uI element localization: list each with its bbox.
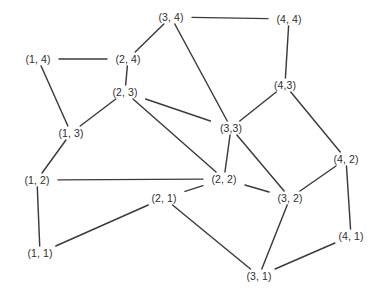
graph-edge [237, 135, 284, 191]
graph-node-label: (3, 2) [277, 193, 303, 204]
graph-node-label: (3, 4) [158, 12, 184, 23]
graph-edge [135, 24, 164, 52]
graph-edge [245, 185, 269, 192]
graph-edge [346, 166, 350, 229]
graph-node-label: (2, 3) [112, 87, 138, 98]
graph-edge [185, 186, 203, 192]
graph-edge [275, 243, 335, 269]
graph-node-label: (3, 1) [246, 271, 272, 282]
graph-node-label: (1, 1) [27, 248, 53, 259]
graph-edge [80, 99, 116, 126]
graph-node-label: (3,3) [219, 123, 242, 134]
graph-edge [41, 66, 68, 126]
graph-edge [291, 92, 340, 152]
graph-edge [175, 24, 227, 121]
graph-edge [56, 205, 148, 246]
graph-edge [240, 92, 276, 121]
graph-edge [300, 166, 336, 191]
graph-edge [37, 187, 39, 246]
graph-node-label: (4, 4) [276, 14, 302, 25]
graph-node-label: (2, 4) [115, 54, 141, 65]
graph-node-label: (1, 4) [25, 54, 51, 65]
graph-edge [58, 179, 203, 180]
graph-edge [133, 99, 216, 172]
graph-node-label: (2, 1) [151, 193, 177, 204]
graph-edge [262, 205, 287, 269]
graph-node-label: (1, 2) [24, 175, 50, 186]
graph-edge [42, 140, 66, 173]
graph-edge [173, 205, 251, 269]
graph-edges-layer [0, 0, 384, 301]
graph-edge [285, 26, 288, 78]
graph-node-label: (2, 2) [211, 174, 237, 185]
graph-edge [192, 17, 268, 18]
graph-node-label: (4, 2) [333, 154, 359, 165]
graph-node-label: (1, 3) [58, 128, 84, 139]
graph-edge [126, 66, 128, 85]
graph-node-label: (4, 1) [338, 231, 364, 242]
graph-edge [225, 135, 230, 172]
graph-node-label: (4,3) [273, 80, 296, 91]
graph-diagram: (1, 4)(2, 4)(3, 4)(4, 4)(2, 3)(1, 3)(3,3… [0, 0, 384, 301]
